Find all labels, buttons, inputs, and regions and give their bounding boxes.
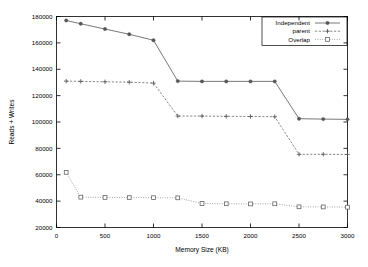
data-point-marker <box>325 29 329 33</box>
data-point-marker <box>79 79 83 83</box>
data-point-marker <box>64 170 68 174</box>
y-tick-label: 140000 <box>32 65 53 72</box>
legend-sample-independent <box>315 21 340 24</box>
y-tick-label: 100000 <box>32 118 53 125</box>
y-tick-label: 80000 <box>35 145 53 152</box>
data-point-marker <box>176 79 179 82</box>
data-point-marker <box>127 80 131 84</box>
data-point-marker <box>64 79 68 83</box>
legend-sample-parent <box>315 29 340 33</box>
legend-sample-overlap <box>315 38 340 42</box>
chart-plot: 2000040000600008000010000012000014000016… <box>0 0 368 267</box>
data-point-marker <box>200 202 204 206</box>
series-overlap <box>64 170 349 209</box>
series-line <box>66 172 347 207</box>
data-point-marker <box>224 202 228 206</box>
data-point-marker <box>152 196 156 200</box>
data-point-marker <box>249 202 253 206</box>
data-point-marker <box>103 27 106 30</box>
data-point-marker <box>326 38 330 42</box>
x-tick-label: 500 <box>100 232 111 239</box>
data-point-marker <box>297 152 301 156</box>
data-point-marker <box>127 196 131 200</box>
data-point-marker <box>248 114 252 118</box>
data-point-marker <box>200 80 203 83</box>
x-tick-label: 0 <box>55 232 59 239</box>
chart-container: 2000040000600008000010000012000014000016… <box>0 0 368 267</box>
data-point-marker <box>103 80 107 84</box>
data-point-marker <box>79 195 83 199</box>
plot-frame <box>57 17 348 228</box>
y-tick-label: 160000 <box>32 39 53 46</box>
data-point-marker <box>224 114 228 118</box>
data-point-marker <box>297 205 301 209</box>
data-point-marker <box>128 33 131 36</box>
data-point-marker <box>273 202 277 206</box>
data-point-marker <box>346 205 350 209</box>
legend-label-parent: parent <box>292 27 310 34</box>
x-tick-label: 1000 <box>147 232 161 239</box>
data-point-marker <box>249 80 252 83</box>
legend-label-overlap: Overlap <box>288 36 310 43</box>
x-axis-ticks: 050010001500200025003000 <box>55 17 355 239</box>
legend-label-independent: Independent <box>276 19 311 26</box>
data-point-marker <box>321 152 325 156</box>
x-axis-title: Memory Size (KB) <box>175 246 229 254</box>
data-point-marker <box>273 115 277 119</box>
x-tick-label: 1500 <box>195 232 209 239</box>
data-point-marker <box>345 152 349 156</box>
y-axis-title: Reads + Writes <box>8 99 15 145</box>
data-point-marker <box>326 21 329 24</box>
data-point-marker <box>273 80 276 83</box>
series-layer <box>64 19 350 209</box>
data-point-marker <box>65 19 68 22</box>
series-line <box>66 81 347 154</box>
y-tick-label: 120000 <box>32 92 53 99</box>
y-tick-label: 60000 <box>35 171 53 178</box>
series-parent <box>64 79 350 157</box>
x-tick-label: 3000 <box>341 232 355 239</box>
x-tick-label: 2500 <box>292 232 306 239</box>
data-point-marker <box>79 22 82 25</box>
y-tick-label: 20000 <box>35 224 53 231</box>
data-point-marker <box>152 39 155 42</box>
data-point-marker <box>297 117 300 120</box>
x-tick-label: 2000 <box>244 232 258 239</box>
y-tick-label: 180000 <box>32 13 53 20</box>
data-point-marker <box>346 118 349 121</box>
data-point-marker <box>321 205 325 209</box>
data-point-marker <box>176 196 180 200</box>
y-tick-label: 40000 <box>35 197 53 204</box>
data-point-marker <box>103 196 107 200</box>
data-point-marker <box>200 114 204 118</box>
chart-legend: IndependentparentOverlap <box>262 17 347 46</box>
data-point-marker <box>322 117 325 120</box>
data-point-marker <box>225 80 228 83</box>
